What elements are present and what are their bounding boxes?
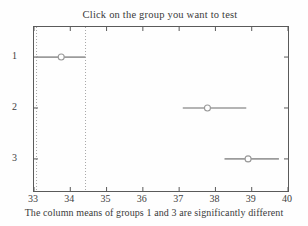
y-tick-label: 1: [0, 50, 17, 62]
y-tick-label: 3: [0, 152, 17, 164]
x-tick-label: 34: [58, 193, 80, 205]
x-tick-label: 36: [131, 193, 153, 205]
group-1-mean-marker[interactable]: [58, 54, 64, 60]
x-tick-label: 37: [167, 193, 189, 205]
x-tick-label: 33: [22, 193, 44, 205]
x-tick-label: 39: [240, 193, 262, 205]
chart-title: Click on the group you want to test: [33, 8, 287, 21]
x-tick-label: 35: [95, 193, 117, 205]
comparison-interval-chart: [34, 27, 288, 191]
group-3-mean-marker[interactable]: [245, 156, 251, 162]
x-tick-label: 40: [276, 193, 298, 205]
plot-area[interactable]: [33, 26, 289, 192]
x-axis-label: The column means of groups 1 and 3 are s…: [0, 206, 308, 219]
x-tick-label: 38: [203, 193, 225, 205]
multcompare-figure: Click on the group you want to test 3334…: [0, 0, 308, 226]
group-2-mean-marker[interactable]: [204, 105, 210, 111]
y-tick-label: 2: [0, 101, 17, 113]
